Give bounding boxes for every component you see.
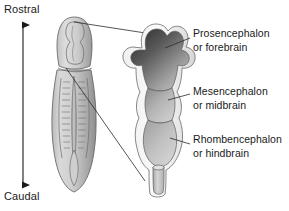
axis-label-caudal: Caudal (4, 190, 39, 202)
callout-prosencephalon-line2: or forebrain (193, 41, 270, 55)
neural-tube-embryo (52, 17, 96, 192)
callout-rhombencephalon-line1: Rhombencephalon (193, 133, 282, 145)
spinal-cord-stub (153, 167, 164, 194)
primary-brain-vesicles (123, 24, 195, 197)
callout-rhombencephalon: Rhombencephalon or hindbrain (193, 133, 282, 160)
neural-tube-figure: Rostral Caudal Prosencephalon or forebra… (0, 0, 289, 211)
callout-mesencephalon: Mesencephalon or midbrain (193, 85, 268, 112)
callout-rhombencephalon-line2: or hindbrain (193, 147, 282, 161)
spinal-cord-lumen (153, 165, 164, 170)
midbrain-vesicle (145, 88, 175, 123)
embryo-head (57, 17, 92, 69)
callout-prosencephalon: Prosencephalon or forebrain (193, 27, 270, 54)
callout-prosencephalon-line1: Prosencephalon (193, 27, 270, 39)
callout-mesencephalon-line1: Mesencephalon (193, 85, 268, 97)
axis-label-rostral: Rostral (4, 3, 40, 15)
callout-mesencephalon-line2: or midbrain (193, 99, 268, 113)
